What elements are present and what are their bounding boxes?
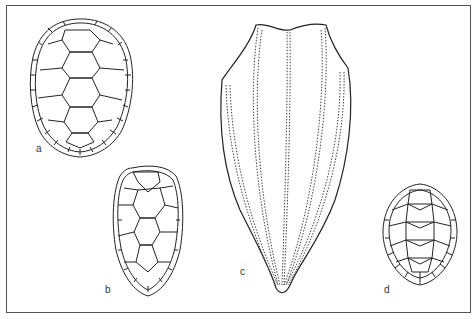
- panel-label-d: d: [384, 284, 390, 295]
- panel-label-a: a: [36, 143, 42, 154]
- panel-label-b: b: [105, 284, 111, 295]
- panel-label-c: c: [240, 266, 245, 277]
- carapace-d: [383, 184, 457, 285]
- carapace-b: [113, 166, 183, 296]
- carapace-a: [30, 19, 133, 157]
- carapace-c: [221, 24, 351, 293]
- figure-drawings: [0, 0, 476, 319]
